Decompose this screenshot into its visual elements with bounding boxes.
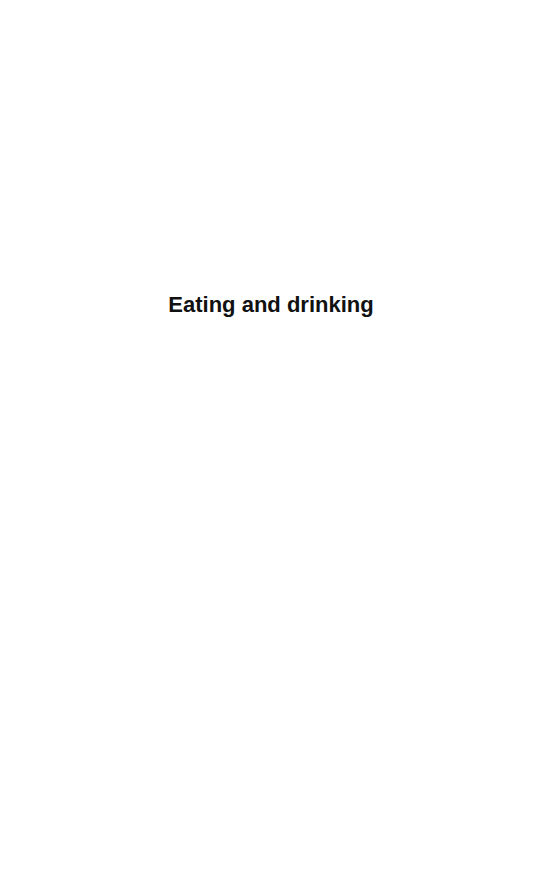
section-title: Eating and drinking bbox=[0, 292, 542, 318]
document-page: Eating and drinking bbox=[0, 0, 542, 889]
